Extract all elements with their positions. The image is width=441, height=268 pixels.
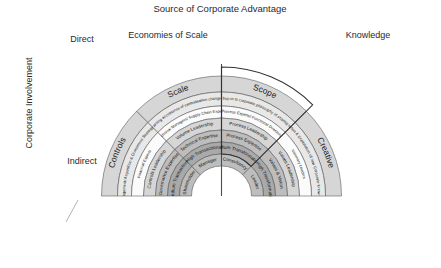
footer-leader-line	[66, 200, 78, 222]
diagram-title: Source of Corporate Advantage	[153, 3, 286, 14]
axis-label-corporate-involvement: Corporate Involvement	[24, 57, 34, 149]
axis-label-indirect: Indirect	[67, 156, 97, 166]
group-label-knowledge: Knowledge	[346, 30, 391, 40]
axis-label-direct: Direct	[70, 34, 94, 44]
diagram-canvas: ControlsPortfolio Management/ Acquisitio…	[0, 0, 441, 268]
corporate-advantage-arc-diagram: ControlsPortfolio Management/ Acquisitio…	[0, 0, 441, 268]
group-label-economies-of-scale: Economies of Scale	[128, 30, 208, 40]
